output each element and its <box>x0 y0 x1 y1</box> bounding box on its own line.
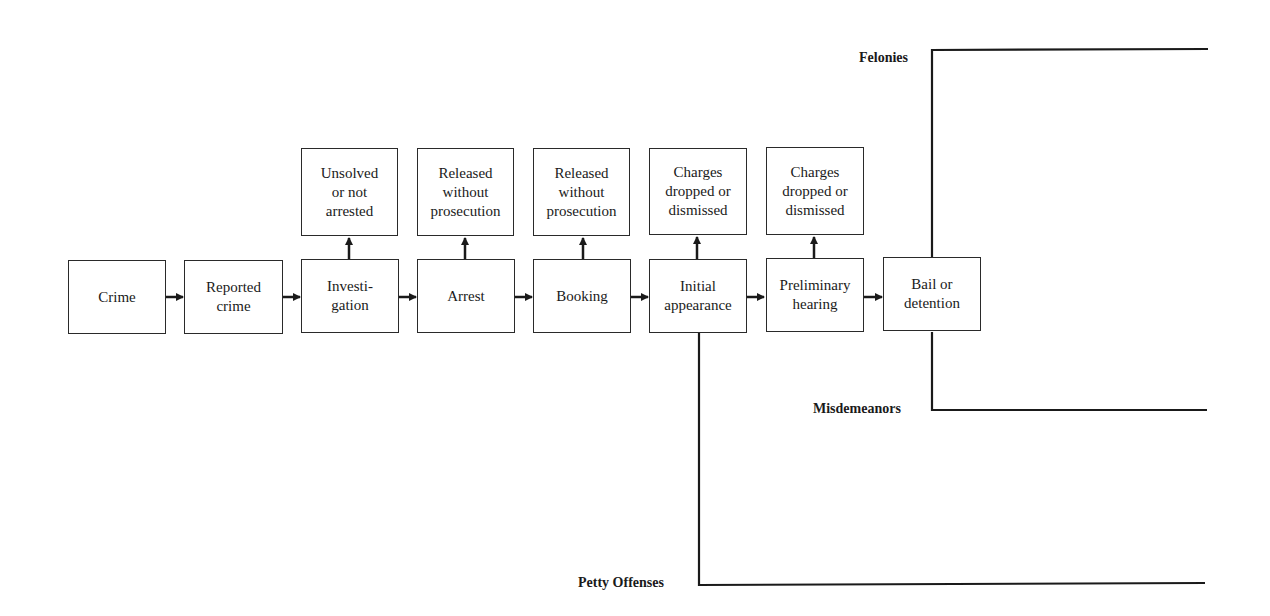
step-initial-appearance: Initial appearance <box>649 259 747 333</box>
step-crime: Crime <box>68 260 166 334</box>
exit-unsolved-or-not-arrested: Unsolved or not arrested <box>301 148 398 236</box>
step-investigation: Investi- gation <box>301 259 399 333</box>
exit-released-without-prosecution-booking: Released without prosecution <box>533 148 630 236</box>
exit-charges-dropped-preliminary: Charges dropped or dismissed <box>766 147 864 235</box>
exit-charges-dropped-initial: Charges dropped or dismissed <box>649 148 747 235</box>
step-arrest: Arrest <box>417 259 515 333</box>
step-preliminary-hearing: Preliminary hearing <box>766 258 864 332</box>
step-reported-crime: Reported crime <box>184 260 283 334</box>
branch-label-felonies: Felonies <box>859 50 908 66</box>
step-booking: Booking <box>533 259 631 333</box>
branch-label-petty-offenses: Petty Offenses <box>578 575 664 591</box>
branch-label-misdemeanors: Misdemeanors <box>813 401 901 417</box>
step-bail-or-detention: Bail or detention <box>883 257 981 331</box>
exit-released-without-prosecution-arrest: Released without prosecution <box>417 148 514 236</box>
